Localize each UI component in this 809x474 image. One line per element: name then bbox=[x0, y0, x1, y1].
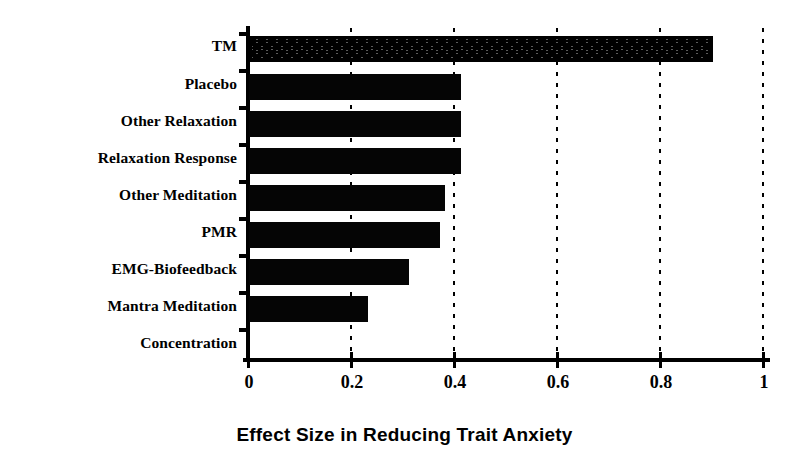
category-tick-mantra-meditation bbox=[239, 291, 248, 295]
bar-other-relaxation bbox=[249, 111, 461, 137]
category-label-mantra-meditation: Mantra Meditation bbox=[0, 298, 237, 314]
category-tick-other-relaxation bbox=[239, 106, 248, 110]
value-tick-1 bbox=[762, 352, 765, 368]
value-tick-label-0.2: 0.2 bbox=[341, 372, 364, 393]
category-label-emg-biofeedback: EMG-Biofeedback bbox=[0, 261, 237, 277]
value-tick-label-1: 1 bbox=[760, 372, 769, 393]
category-axis-labels: TM Placebo Other Relaxation Relaxation R… bbox=[0, 28, 243, 358]
value-tick-0.8 bbox=[659, 352, 662, 368]
category-tick-pmr bbox=[239, 217, 248, 221]
category-label-other-meditation: Other Meditation bbox=[0, 187, 237, 203]
category-tick-relaxation-response bbox=[239, 143, 248, 147]
bar-other-meditation bbox=[249, 185, 445, 211]
category-label-concentration: Concentration bbox=[0, 335, 237, 351]
value-tick-label-0.4: 0.4 bbox=[444, 372, 467, 393]
value-tick-0.6 bbox=[556, 352, 559, 368]
bar-placebo bbox=[249, 74, 461, 100]
bar-pmr bbox=[249, 222, 440, 248]
value-tick-0 bbox=[247, 352, 250, 368]
bar-tm bbox=[249, 36, 713, 62]
category-label-relaxation-response: Relaxation Response bbox=[0, 150, 237, 166]
bar-emg-biofeedback bbox=[249, 259, 409, 285]
plot-area: 0 0.2 0.4 0.6 0.8 1 bbox=[249, 28, 764, 358]
x-axis-title: Effect Size in Reducing Trait Anxiety bbox=[0, 424, 809, 446]
bar-chart: TM Placebo Other Relaxation Relaxation R… bbox=[0, 0, 809, 474]
gridline-0.6 bbox=[556, 28, 558, 358]
value-tick-label-0.8: 0.8 bbox=[650, 372, 673, 393]
category-label-placebo: Placebo bbox=[0, 76, 237, 92]
category-tick-concentration bbox=[239, 328, 248, 332]
category-tick-emg-biofeedback bbox=[239, 254, 248, 258]
category-tick-other-meditation bbox=[239, 180, 248, 184]
value-tick-0.4 bbox=[453, 352, 456, 368]
category-axis-line bbox=[243, 358, 770, 362]
category-label-pmr: PMR bbox=[0, 224, 237, 240]
category-label-other-relaxation: Other Relaxation bbox=[0, 113, 237, 129]
value-tick-0.2 bbox=[350, 352, 353, 368]
bar-relaxation-response bbox=[249, 148, 461, 174]
gridline-1.0 bbox=[762, 28, 764, 358]
category-label-tm: TM bbox=[0, 38, 237, 54]
category-tick-placebo bbox=[239, 69, 248, 73]
category-tick-tm bbox=[239, 32, 248, 36]
value-tick-label-0.6: 0.6 bbox=[547, 372, 570, 393]
gridline-0.8 bbox=[659, 28, 661, 358]
bar-mantra-meditation bbox=[249, 296, 368, 322]
value-tick-label-0: 0 bbox=[245, 372, 254, 393]
